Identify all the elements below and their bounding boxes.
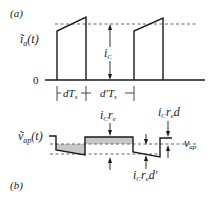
arrow-down-icon — [108, 130, 112, 136]
icredprime-label: iCred′ — [133, 168, 158, 183]
arrow-up-icon — [166, 145, 170, 151]
current-pulse-1 — [57, 17, 86, 80]
panel-b-label: (b) — [10, 179, 23, 192]
dTs-label: dTs — [63, 87, 78, 101]
arrow-down-icon — [166, 131, 170, 137]
icred-label: iCred — [158, 105, 181, 120]
panel-b-ylabel: ṽap(t) — [18, 129, 43, 145]
icre-label: iCre — [100, 108, 116, 123]
arrow-down-icon — [108, 74, 112, 80]
arrow-up-icon — [108, 157, 112, 163]
diagram-canvas: (a) ĩa(t) 0 iC dTs d′Ts ṽap(t) (b) — [0, 0, 210, 212]
panel-a: (a) ĩa(t) 0 iC dTs d′Ts — [10, 7, 205, 101]
panel-a-label: (a) — [10, 7, 23, 20]
panel-b: ṽap(t) (b) iCre iCred iCred′ vap — [10, 105, 197, 192]
panel-a-ylabel: ĩa(t) — [20, 32, 39, 48]
dprimeTs-label: d′Ts — [100, 87, 117, 101]
zero-label: 0 — [33, 74, 39, 86]
shaded-area-1 — [56, 144, 85, 155]
shaded-area-2 — [85, 137, 133, 144]
vap-label: vap — [184, 136, 197, 151]
current-pulse-2 — [134, 18, 163, 80]
arrow-up-icon — [108, 24, 112, 30]
arrow-up-icon — [144, 155, 148, 161]
